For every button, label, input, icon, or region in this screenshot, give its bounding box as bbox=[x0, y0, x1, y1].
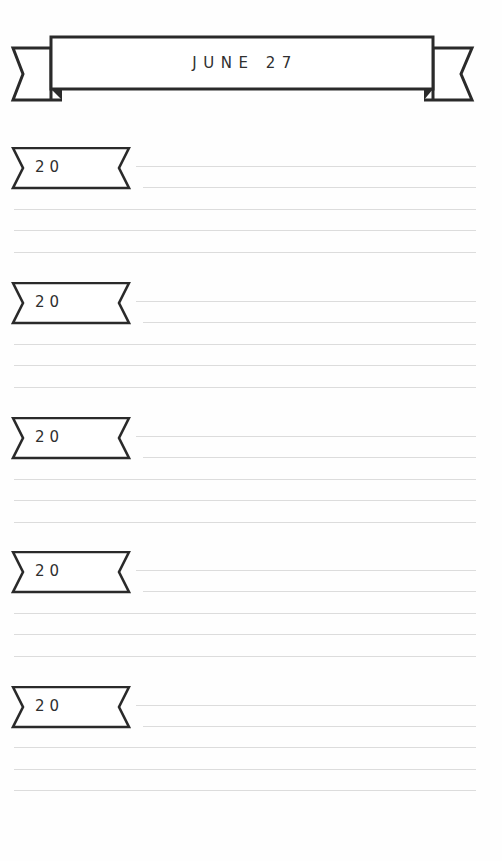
writing-line[interactable] bbox=[14, 634, 476, 635]
date-banner: JUNE 27 bbox=[0, 0, 502, 110]
writing-line[interactable] bbox=[143, 187, 476, 188]
writing-line[interactable] bbox=[14, 613, 476, 614]
writing-line[interactable] bbox=[14, 365, 476, 366]
writing-line[interactable] bbox=[14, 790, 476, 791]
year-label: 20 bbox=[35, 697, 64, 715]
year-entry: 20 bbox=[0, 417, 502, 537]
notched-tag-icon bbox=[0, 551, 140, 595]
writing-line[interactable] bbox=[14, 522, 476, 523]
writing-line[interactable] bbox=[143, 591, 476, 592]
writing-line[interactable] bbox=[14, 387, 476, 388]
writing-line[interactable] bbox=[143, 457, 476, 458]
writing-line[interactable] bbox=[136, 705, 476, 706]
year-entry: 20 bbox=[0, 147, 502, 267]
writing-line[interactable] bbox=[14, 500, 476, 501]
year-tag: 20 bbox=[0, 147, 140, 191]
year-label: 20 bbox=[35, 428, 64, 446]
year-tag: 20 bbox=[0, 686, 140, 730]
writing-line[interactable] bbox=[136, 436, 476, 437]
writing-line[interactable] bbox=[143, 726, 476, 727]
writing-line[interactable] bbox=[14, 479, 476, 480]
writing-line[interactable] bbox=[136, 570, 476, 571]
year-label: 20 bbox=[35, 293, 64, 311]
year-label: 20 bbox=[35, 158, 64, 176]
notched-tag-icon bbox=[0, 282, 140, 326]
writing-line[interactable] bbox=[136, 166, 476, 167]
notched-tag-icon bbox=[0, 417, 140, 461]
year-entry: 20 bbox=[0, 686, 502, 806]
writing-line[interactable] bbox=[14, 747, 476, 748]
writing-line[interactable] bbox=[14, 230, 476, 231]
writing-line[interactable] bbox=[136, 301, 476, 302]
notched-tag-icon bbox=[0, 686, 140, 730]
year-label: 20 bbox=[35, 562, 64, 580]
writing-line[interactable] bbox=[14, 344, 476, 345]
year-entry: 20 bbox=[0, 282, 502, 402]
writing-line[interactable] bbox=[14, 656, 476, 657]
writing-line[interactable] bbox=[14, 769, 476, 770]
journal-page: JUNE 27 20 20 bbox=[0, 0, 502, 861]
year-entry: 20 bbox=[0, 551, 502, 671]
year-tag: 20 bbox=[0, 551, 140, 595]
year-tag: 20 bbox=[0, 282, 140, 326]
year-tag: 20 bbox=[0, 417, 140, 461]
writing-line[interactable] bbox=[14, 209, 476, 210]
page-title: JUNE 27 bbox=[51, 37, 433, 89]
notched-tag-icon bbox=[0, 147, 140, 191]
writing-line[interactable] bbox=[143, 322, 476, 323]
writing-line[interactable] bbox=[14, 252, 476, 253]
